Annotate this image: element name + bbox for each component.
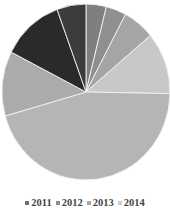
legend-swatch-2012 xyxy=(56,201,60,205)
legend-label-2011: 2011 xyxy=(31,197,51,208)
legend-label-2012: 2012 xyxy=(62,197,83,208)
pie-chart xyxy=(0,0,170,185)
legend-label-2013: 2013 xyxy=(93,197,114,208)
legend-swatch-2011 xyxy=(25,201,29,205)
pie-chart-svg xyxy=(0,0,170,185)
legend-item-2013: 2013 xyxy=(87,197,114,208)
legend-item-2014: 2014 xyxy=(118,197,145,208)
legend-item-2011: 2011 xyxy=(25,197,51,208)
legend-item-2012: 2012 xyxy=(56,197,83,208)
legend-label-2014: 2014 xyxy=(124,197,145,208)
legend-swatch-2013 xyxy=(87,201,91,205)
legend-swatch-2014 xyxy=(118,201,122,205)
chart-legend: 2011 2012 2013 2014 xyxy=(0,197,170,208)
